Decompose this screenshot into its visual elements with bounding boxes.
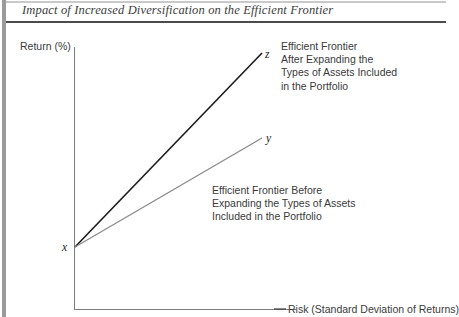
endpoint-label-y: y (266, 132, 271, 144)
origin-point-label-x: x (62, 241, 67, 253)
annotation-frontier-after: Efficient Frontier After Expanding the T… (281, 40, 397, 93)
annotation-frontier-before: Efficient Frontier Before Expanding the … (212, 184, 355, 224)
endpoint-label-z: z (265, 48, 269, 60)
